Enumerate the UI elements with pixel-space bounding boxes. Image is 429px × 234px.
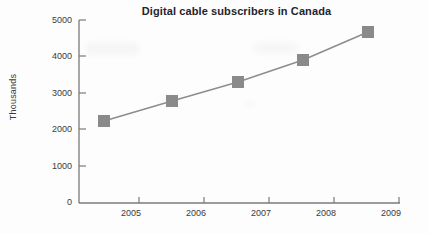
- data-point-marker: [166, 95, 178, 107]
- chart-figure: Digital cable subscribers in Canada Thou…: [0, 0, 429, 234]
- axes: [79, 20, 400, 203]
- data-point-marker: [362, 26, 374, 38]
- data-markers: [98, 26, 374, 127]
- plot-area: [0, 0, 429, 234]
- data-point-marker: [232, 76, 244, 88]
- y-axis-ticks: [79, 20, 86, 166]
- data-point-marker: [98, 115, 110, 127]
- x-axis-ticks: [139, 197, 399, 203]
- data-point-marker: [297, 54, 309, 66]
